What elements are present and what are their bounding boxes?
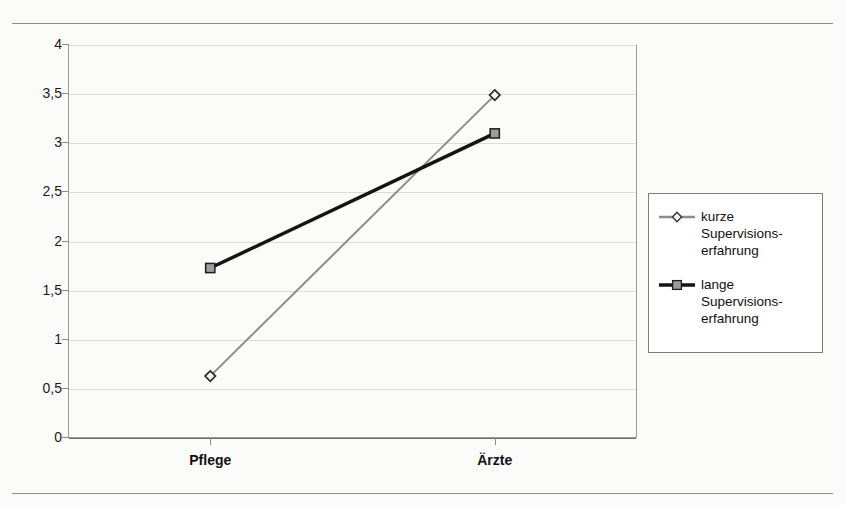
legend-label-kurze: kurze Supervisions- erfahrung [701,208,819,259]
gridline-y-3-5 [69,94,636,95]
y-tick-label: 0 [14,430,62,444]
x-tick-mark [495,438,496,445]
gridline-y-1 [69,340,636,341]
gridline-y-0 [69,438,636,439]
y-tick-label: 3 [14,135,62,149]
y-tick-mark [62,437,69,438]
gridline-y-3 [69,143,636,144]
gridline-y-1-5 [69,291,636,292]
y-tick-mark [62,290,69,291]
y-tick-label: 0,5 [14,381,62,395]
y-tick-mark [62,93,69,94]
y-tick-label: 1 [14,332,62,346]
y-tick-label: 2 [14,234,62,248]
x-tick-label-aerzte: Ärzte [477,452,512,468]
y-tick-label: 1,5 [14,283,62,297]
figure-container: 00,511,522,533,54 kurze Supervisions- er… [0,0,845,505]
bottom-divider-rule [12,493,833,494]
y-tick-mark [62,388,69,389]
y-tick-mark [62,339,69,340]
y-tick-mark [62,44,69,45]
y-tick-label: 2,5 [14,184,62,198]
y-tick-mark [62,191,69,192]
y-tick-mark [62,142,69,143]
plot-area [68,45,637,438]
gridline-y-2 [69,242,636,243]
chart-legend: kurze Supervisions- erfahrung lange Supe… [648,193,823,353]
legend-marker-square-icon [659,278,695,292]
legend-marker-diamond-icon [659,210,695,224]
x-tick-mark [210,438,211,445]
x-tick-label-pflege: Pflege [189,452,231,468]
gridline-y-2-5 [69,192,636,193]
legend-label-lange: lange Supervisions- erfahrung [701,276,819,327]
y-tick-label: 4 [14,37,62,51]
y-axis-tick-labels: 00,511,522,533,54 [8,0,62,505]
gridline-y-4 [69,45,636,46]
top-divider-rule [12,23,833,24]
y-tick-label: 3,5 [14,86,62,100]
y-tick-mark [62,241,69,242]
gridline-y-0-5 [69,389,636,390]
